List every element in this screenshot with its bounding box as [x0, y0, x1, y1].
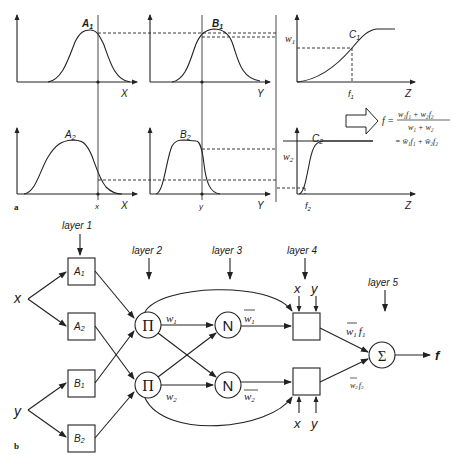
svg-text:w2: w2: [244, 390, 255, 404]
svg-text:Σ: Σ: [378, 348, 387, 364]
svg-text:f2: f2: [305, 201, 312, 212]
svg-text:= w̄₁f₁ + w̄₂f₂: = w̄₁f₁ + w̄₂f₂: [395, 137, 438, 146]
chart-b1: B1 Y: [150, 15, 270, 99]
svg-text:w1: w1: [285, 33, 295, 46]
layer-2-label: layer 2: [132, 245, 162, 256]
input-y: y: [13, 403, 22, 419]
layer-1-label: layer 1: [62, 220, 92, 231]
y-axis-label: Y: [257, 88, 265, 99]
output-f: f: [435, 348, 441, 363]
svg-text:A1: A1: [81, 18, 93, 30]
layer-4-label: layer 4: [287, 245, 317, 256]
y-input-tick: y: [198, 202, 204, 211]
svg-text:C1: C1: [349, 29, 360, 41]
node-sigma: Σ: [369, 342, 395, 368]
node-b1: B1: [68, 370, 95, 397]
layer4-x-top: x: [293, 281, 301, 296]
svg-text:Π: Π: [142, 317, 154, 334]
layer-5-label: layer 5: [368, 277, 398, 288]
chart-a1: A1 X: [17, 15, 137, 99]
svg-text:B1: B1: [212, 18, 223, 30]
svg-text:N: N: [223, 317, 234, 334]
anfis-diagram: A1 X B1 Y C1 w1 f1 Z A2: [0, 0, 455, 461]
w2f2-label: w2f2: [350, 381, 364, 390]
node-layer4-1: [293, 313, 320, 340]
chart-b2: B2 Y y: [150, 128, 270, 211]
node-a2: A2: [68, 313, 95, 340]
chart-a2: A2 X x: [17, 128, 137, 211]
node-b2: B2: [68, 425, 95, 452]
x-axis-label-2: X: [120, 200, 128, 211]
layer-3-label: layer 3: [212, 245, 242, 256]
layer4-x-bottom: x: [293, 416, 301, 431]
svg-text:w₁f₁ + w₂f₂: w₁f₁ + w₂f₂: [398, 110, 434, 119]
w1f1-label: w1f1: [346, 325, 365, 339]
panel-b: layer 1 layer 2 layer 3 layer 4 layer 5 …: [13, 220, 441, 452]
a1-label: A: [81, 18, 89, 29]
panel-a: A1 X B1 Y C1 w1 f1 Z A2: [14, 15, 450, 212]
input-x: x: [13, 290, 22, 306]
panel-a-label: a: [14, 202, 19, 212]
x-axis-label: X: [120, 88, 128, 99]
svg-text:Π: Π: [142, 377, 154, 394]
panel-b-label: b: [14, 441, 19, 451]
b1-label: B: [212, 18, 219, 29]
z-axis-label: Z: [404, 88, 412, 99]
formula: f = w₁f₁ + w₂f₂ w₁ + w₂ = w̄₁f₁ + w̄₂f₂: [382, 110, 450, 146]
svg-text:w2: w2: [283, 151, 294, 164]
x-input-tick: x: [94, 202, 100, 211]
svg-text:w₁ + w₂: w₁ + w₂: [408, 123, 434, 132]
svg-text:w1: w1: [244, 312, 255, 326]
layer4-y-bottom: y: [310, 416, 319, 431]
node-n-2: N: [215, 372, 241, 398]
chart-c1: C1 w1 f1 Z: [285, 15, 415, 100]
node-layer4-2: [293, 368, 320, 395]
svg-text:w2: w2: [166, 390, 177, 404]
y-axis-label-2: Y: [257, 200, 265, 211]
node-pi-2: Π: [135, 372, 161, 398]
svg-text:f1: f1: [348, 89, 354, 100]
svg-text:N: N: [223, 377, 234, 394]
layer4-y-top: y: [310, 281, 319, 296]
node-pi-1: Π: [135, 312, 161, 338]
block-arrow-icon: [346, 108, 378, 134]
svg-text:A2: A2: [64, 129, 76, 141]
svg-text:B2: B2: [180, 129, 191, 141]
z-axis-label-2: Z: [404, 200, 412, 211]
svg-text:C2: C2: [312, 133, 323, 145]
node-n-1: N: [215, 312, 241, 338]
node-a1: A1: [68, 258, 95, 285]
svg-text:w1: w1: [166, 312, 177, 326]
svg-text:f =: f =: [382, 115, 394, 126]
